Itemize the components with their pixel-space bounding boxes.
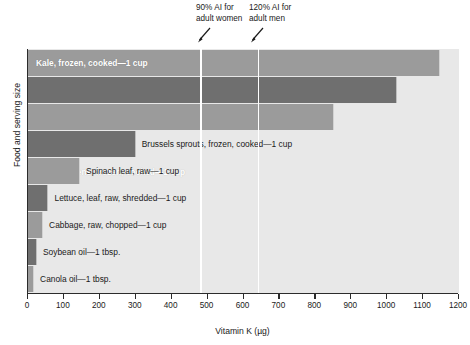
x-tick-label: 1200 bbox=[449, 301, 467, 310]
x-tick-label: 1100 bbox=[413, 301, 431, 310]
x-axis-title: Vitamin K (µg) bbox=[27, 326, 458, 336]
x-tick-label: 0 bbox=[25, 301, 30, 310]
bar-end-cap bbox=[135, 131, 136, 157]
bar-end-cap bbox=[42, 212, 43, 238]
x-tick bbox=[458, 294, 459, 299]
x-tick-label: 500 bbox=[200, 301, 214, 310]
x-tick bbox=[278, 294, 279, 299]
bar-label-9: Canola oil—1 tbsp. bbox=[40, 266, 111, 292]
x-tick-label: 600 bbox=[236, 301, 250, 310]
x-axis: 0100200300400500600700800900100011001200 bbox=[27, 293, 458, 294]
x-tick-label: 400 bbox=[164, 301, 178, 310]
bar-label-4: Brussels sprouts, frozen, cooked—1 cup bbox=[142, 131, 292, 157]
bar-end-cap bbox=[33, 266, 34, 292]
bar-8 bbox=[28, 239, 37, 265]
x-tick bbox=[314, 294, 315, 299]
bar-end-cap bbox=[36, 239, 37, 265]
bar-end-cap bbox=[396, 77, 397, 103]
bar-5 bbox=[28, 158, 80, 184]
x-tick bbox=[135, 294, 136, 299]
x-tick-label: 200 bbox=[92, 301, 106, 310]
x-tick-label: 1000 bbox=[377, 301, 395, 310]
bar-2: Spinach, frozen, cooked—1 cup bbox=[28, 77, 397, 103]
x-tick bbox=[27, 294, 28, 299]
bar-4 bbox=[28, 131, 136, 157]
x-tick-label: 300 bbox=[128, 301, 142, 310]
bar-end-cap bbox=[333, 104, 334, 130]
x-tick bbox=[171, 294, 172, 299]
y-axis-title: Food and serving size bbox=[12, 50, 22, 200]
x-tick-label: 100 bbox=[56, 301, 70, 310]
vitamin-k-bar-chart: 90% AI for adult women 120% AI for adult… bbox=[0, 0, 470, 345]
bar-label-1: Kale, frozen, cooked—1 cup bbox=[36, 50, 148, 76]
x-tick bbox=[243, 294, 244, 299]
bar-7 bbox=[28, 212, 43, 238]
x-tick-label: 800 bbox=[307, 301, 321, 310]
bar-label-7: Cabbage, raw, chopped—1 cup bbox=[49, 212, 166, 238]
x-tick bbox=[386, 294, 387, 299]
x-tick bbox=[350, 294, 351, 299]
bar-label-5: Spinach leaf, raw—1 cup bbox=[86, 158, 179, 184]
down-left-arrow-icon-women bbox=[195, 26, 213, 42]
bar-1: Kale, frozen, cooked—1 cup bbox=[28, 50, 440, 76]
bar-6 bbox=[28, 185, 48, 211]
x-tick bbox=[63, 294, 64, 299]
bar-label-6: Lettuce, leaf, raw, shredded—1 cup bbox=[54, 185, 186, 211]
down-left-arrow-icon-men bbox=[248, 26, 266, 42]
annotation-120-percent-ai-men: 120% AI for adult men bbox=[249, 3, 307, 24]
reference-line-1 bbox=[200, 49, 201, 293]
bars-container: Kale, frozen, cooked—1 cupSpinach, froze… bbox=[28, 49, 459, 293]
x-tick-label: 700 bbox=[272, 301, 286, 310]
plot-area: Kale, frozen, cooked—1 cupSpinach, froze… bbox=[27, 49, 459, 293]
reference-line-2 bbox=[258, 49, 259, 293]
bar-end-cap bbox=[47, 185, 48, 211]
bar-end-cap bbox=[79, 158, 80, 184]
x-tick bbox=[422, 294, 423, 299]
bar-label-8: Soybean oil—1 tbsp. bbox=[43, 239, 120, 265]
x-tick-label: 900 bbox=[343, 301, 357, 310]
annotation-90-percent-ai-women: 90% AI for adult women bbox=[196, 3, 254, 24]
bar-end-cap bbox=[439, 50, 440, 76]
bar-3: Turnip greens, frozen, cooked—1 cup bbox=[28, 104, 334, 130]
x-tick bbox=[207, 294, 208, 299]
x-tick bbox=[99, 294, 100, 299]
bar-9 bbox=[28, 266, 34, 292]
